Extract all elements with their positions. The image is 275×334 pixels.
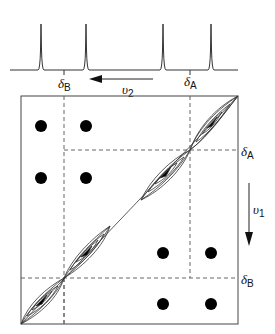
cross-peak	[157, 298, 169, 310]
cross-peak	[35, 172, 47, 184]
cross-peak	[80, 172, 92, 184]
one-d-spectrum: υ2 δB δA	[10, 24, 238, 99]
cross-peak	[35, 120, 47, 132]
delta-a-label-top: δA	[184, 74, 197, 91]
delta-b-label-top: δB	[58, 76, 71, 93]
nu1-label: υ1	[253, 202, 265, 219]
diagonal-line	[21, 96, 238, 324]
diagonal-peak-lower	[64, 226, 110, 278]
nu1-arrow-icon	[245, 183, 253, 246]
delta-b-label-right: δB	[241, 272, 254, 289]
cross-peak	[205, 298, 217, 310]
nu2-arrow-icon	[89, 75, 153, 83]
spectrum-trace	[10, 24, 238, 70]
two-d-spectrum: δA δB υ1	[21, 96, 265, 324]
cross-peak	[157, 247, 169, 259]
cross-peak	[205, 247, 217, 259]
cosy-diagram: υ2 δB δA	[0, 0, 275, 334]
cross-peak	[80, 120, 92, 132]
diagonal-peak-mid	[141, 150, 190, 200]
delta-a-label-right: δA	[241, 144, 254, 161]
